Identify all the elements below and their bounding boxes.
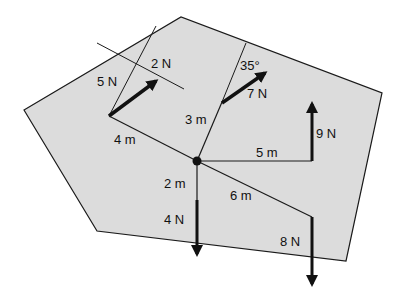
label-3m: 3 m — [185, 112, 207, 127]
label-5m: 5 m — [256, 145, 278, 160]
label-6m: 6 m — [230, 188, 252, 203]
label-4m: 4 m — [114, 132, 136, 147]
label-2m: 2 m — [164, 176, 186, 191]
label-5n: 5 N — [97, 74, 117, 89]
label-35-deg: 35° — [240, 58, 260, 73]
force-diagram: 5 N 2 N 35° 7 N 3 m 4 m 9 N 5 m 2 m 6 m … — [0, 0, 399, 301]
label-9n: 9 N — [316, 126, 336, 141]
label-4n: 4 N — [164, 212, 184, 227]
label-7n: 7 N — [247, 86, 267, 101]
label-8n: 8 N — [280, 234, 300, 249]
pivot-point — [193, 157, 202, 166]
label-2n: 2 N — [151, 56, 171, 71]
